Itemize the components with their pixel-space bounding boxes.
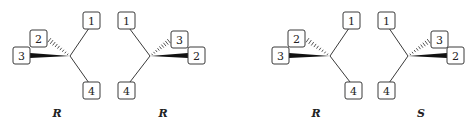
molecule-3: 1234R [272, 12, 362, 120]
bond-plain [390, 56, 408, 82]
substituent-number: 2 [293, 33, 300, 46]
substituent-box-1: 1 [118, 12, 135, 29]
substituent-number: 1 [88, 15, 95, 28]
bond-plain [390, 29, 408, 56]
substituent-box-4: 4 [83, 82, 100, 99]
bond-wedge [408, 53, 447, 58]
substituent-number: 1 [383, 15, 390, 28]
molecule-4: 1234S [378, 12, 464, 120]
substituent-box-2: 2 [288, 30, 305, 47]
substituent-box-3: 3 [171, 31, 188, 48]
substituent-box-4: 4 [118, 82, 135, 99]
bond-wedge [30, 53, 70, 58]
bond-plain [330, 56, 350, 82]
bond-hash [152, 39, 171, 55]
substituent-number: 2 [193, 50, 200, 63]
substituent-number: 3 [436, 34, 443, 47]
bond-plain [130, 29, 150, 56]
substituent-box-1: 1 [83, 12, 100, 29]
bond-hash [48, 38, 68, 55]
substituent-number: 2 [452, 50, 459, 63]
bond-wedge [289, 53, 330, 58]
bond-hash [306, 38, 328, 55]
bond-wedge [150, 53, 188, 58]
substituent-number: 4 [88, 85, 95, 98]
configuration-label: S [417, 107, 425, 120]
substituent-box-4: 4 [345, 82, 362, 99]
substituent-number: 2 [35, 33, 42, 46]
bond-plain [70, 56, 88, 82]
molecule-2: 1234R [118, 12, 205, 120]
bond-plain [130, 56, 150, 82]
substituent-box-3: 3 [431, 31, 448, 48]
substituent-number: 1 [123, 15, 130, 28]
substituent-number: 4 [383, 85, 390, 98]
substituent-box-2: 2 [188, 47, 205, 64]
substituent-box-2: 2 [30, 30, 47, 47]
substituent-box-3: 3 [13, 47, 30, 64]
substituent-number: 1 [348, 15, 355, 28]
substituent-box-1: 1 [378, 12, 395, 29]
configuration-label: R [51, 107, 61, 120]
bond-plain [330, 29, 348, 56]
substituent-number: 4 [123, 85, 130, 98]
stereochemistry-diagram: 1234R1234R1234R1234S [0, 0, 476, 128]
substituent-number: 3 [18, 50, 25, 63]
bond-plain [70, 29, 88, 56]
substituent-number: 3 [277, 50, 284, 63]
substituent-box-1: 1 [343, 12, 360, 29]
bond-hash [410, 39, 430, 55]
substituent-box-4: 4 [378, 82, 395, 99]
substituent-number: 3 [176, 34, 183, 47]
configuration-label: R [310, 107, 320, 120]
configuration-label: R [157, 107, 167, 120]
substituent-box-2: 2 [447, 47, 464, 64]
substituent-box-3: 3 [272, 47, 289, 64]
molecule-1: 1234R [13, 12, 100, 120]
substituent-number: 4 [350, 85, 357, 98]
